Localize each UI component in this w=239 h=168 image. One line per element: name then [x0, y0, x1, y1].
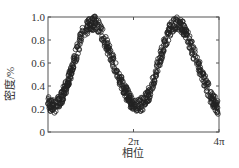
- y-tick-label: 0.4: [31, 80, 45, 92]
- y-tick-label: 0.6: [31, 57, 45, 69]
- y-tick-label: 0: [40, 126, 46, 138]
- y-tick-label: 0.2: [31, 103, 45, 115]
- x-tick-label: 2π: [128, 135, 140, 147]
- x-tick-label: 4π: [213, 135, 225, 147]
- y-tick-label: 0.8: [31, 34, 45, 46]
- x-axis-label: 相位: [122, 146, 144, 159]
- y-axis-label: 密度/%: [3, 67, 16, 101]
- data-points: [46, 14, 221, 116]
- y-tick-label: 1.0: [31, 11, 45, 23]
- plot-axes: 00.20.40.60.81.02π4π: [31, 11, 225, 147]
- density-phase-chart: 00.20.40.60.81.02π4π 密度/% 相位: [0, 0, 239, 168]
